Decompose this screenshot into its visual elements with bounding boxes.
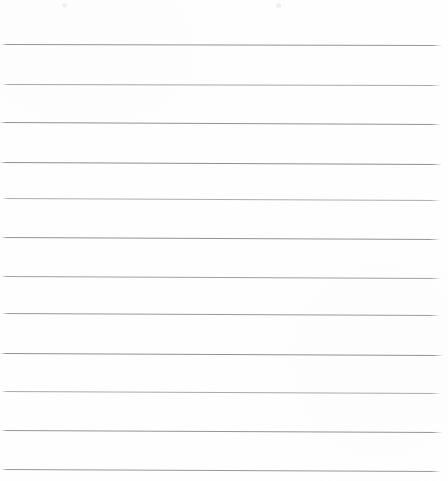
scanned-page [0,0,448,481]
writing-area [0,0,448,481]
